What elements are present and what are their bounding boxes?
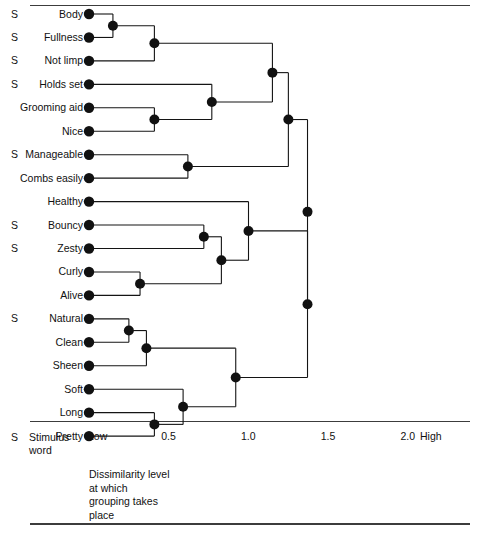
axis-tick-0-5: 0.5 bbox=[161, 431, 176, 442]
axis-tick-1-0: 1.0 bbox=[241, 431, 256, 442]
leaf-node-soft bbox=[84, 384, 94, 394]
merge-node-root bbox=[303, 207, 313, 217]
leaf-node-bouncy bbox=[84, 220, 94, 230]
dendrogram-tree bbox=[0, 0, 479, 535]
leaf-node-body bbox=[84, 9, 94, 19]
axis-label-low: Low bbox=[88, 431, 107, 442]
leaf-node-long bbox=[84, 407, 94, 417]
leaf-node-sheen bbox=[84, 361, 94, 371]
leaf-node-curly bbox=[84, 267, 94, 277]
leaf-node-nice bbox=[84, 126, 94, 136]
figure-caption: Dissimilarity level at which grouping ta… bbox=[89, 468, 170, 522]
leaf-node-natural bbox=[84, 314, 94, 324]
leaf-node-grooming_aid bbox=[84, 103, 94, 113]
leaf-node-fullness bbox=[84, 32, 94, 42]
leaf-node-combs_easily bbox=[84, 173, 94, 183]
leaf-node-healthy bbox=[84, 196, 94, 206]
axis-tick-1-5: 1.5 bbox=[321, 431, 336, 442]
leaf-node-zesty bbox=[84, 243, 94, 253]
leaf-node-clean bbox=[84, 337, 94, 347]
axis-tick-2-0: 2.0 bbox=[401, 431, 416, 442]
axis-label-high: High bbox=[420, 431, 442, 442]
leaf-node-alive bbox=[84, 290, 94, 300]
dendrogram-figure: SBodySFullnessSNot limpSHolds setGroomin… bbox=[0, 0, 479, 535]
leaf-node-not_limp bbox=[84, 56, 94, 66]
leaf-node-holds_set bbox=[84, 79, 94, 89]
legend-stimulus-marker: S bbox=[11, 431, 18, 444]
leaf-node-manageable bbox=[84, 150, 94, 160]
legend-stimulus-text: Stimulus word bbox=[29, 431, 69, 457]
